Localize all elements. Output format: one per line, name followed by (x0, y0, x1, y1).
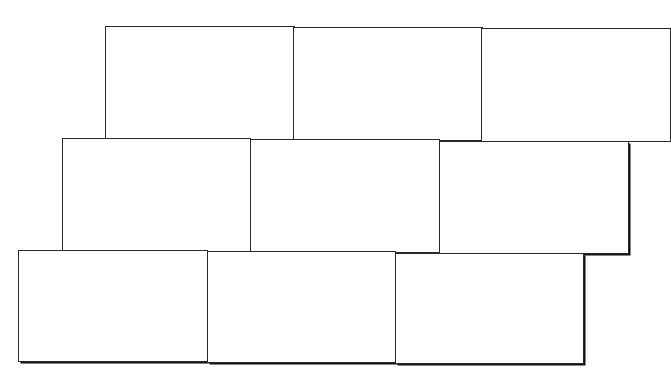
box-r3-c2 (207, 251, 396, 363)
box-r3-c3 (395, 253, 584, 364)
box-r3-c1 (18, 250, 208, 362)
box-r1-c1 (105, 26, 295, 140)
box-r1-c2 (293, 27, 483, 141)
box-r2-c1 (62, 138, 251, 252)
box-r2-c2 (250, 139, 440, 253)
box-r1-c3 (481, 28, 671, 142)
box-r2-c3 (439, 141, 629, 254)
